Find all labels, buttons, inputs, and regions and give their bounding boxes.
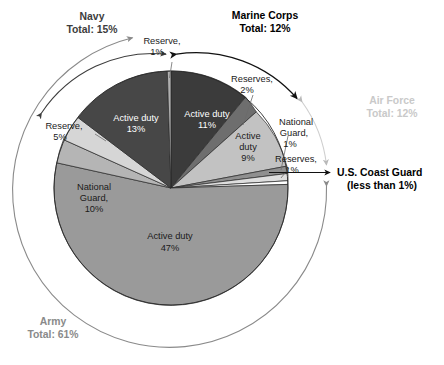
- label-mc-active-line2: 11%: [198, 120, 216, 130]
- label-af-active-line3: 9%: [241, 153, 254, 163]
- label-army-guard-line2: Guard,: [80, 193, 108, 203]
- label-army-guard-line3: 10%: [85, 204, 104, 214]
- chart-svg: Reserve, 1% Active duty 13% Active duty …: [0, 0, 444, 365]
- branch-label-coast-guard-total: (less than 1%): [347, 180, 417, 191]
- label-army-reserve-line2: 5%: [53, 132, 66, 142]
- branch-label-navy-name: Navy: [80, 11, 105, 22]
- branch-label-navy-total: Total: 15%: [66, 24, 117, 35]
- label-army-reserve-line1: Reserve,: [45, 121, 82, 131]
- branch-label-army-name: Army: [40, 316, 67, 327]
- label-army-guard-line1: National: [77, 182, 111, 192]
- label-army-active-line1: Active duty: [147, 231, 193, 241]
- label-af-guard-line3: 1%: [283, 139, 296, 149]
- label-navy-active-line1: Active duty: [113, 113, 159, 123]
- label-mc-reserves-line2: 2%: [240, 85, 253, 95]
- pie-chart-figure: Reserve, 1% Active duty 13% Active duty …: [0, 0, 444, 365]
- branch-label-air-force-name: Air Force: [369, 95, 415, 106]
- label-af-reserves-line2: 1%: [285, 165, 298, 175]
- label-navy-reserve-line1: Reserve,: [143, 36, 180, 46]
- label-af-reserves-line1: Reserves,: [275, 154, 317, 164]
- label-mc-reserves-line1: Reserves,: [231, 74, 273, 84]
- branch-label-marine-corps-total: Total: 12%: [239, 23, 290, 34]
- label-af-active-line1: Active: [235, 131, 260, 141]
- label-af-active-line2: duty: [239, 142, 257, 152]
- label-navy-active-line2: 13%: [127, 124, 146, 134]
- branch-label-army-total: Total: 61%: [27, 329, 78, 340]
- label-af-guard-line1: National: [279, 117, 313, 127]
- branch-label-air-force-total: Total: 12%: [366, 108, 417, 119]
- label-army-active-line2: 47%: [161, 243, 180, 253]
- branch-label-marine-corps-name: Marine Corps: [232, 10, 299, 21]
- label-af-guard-line2: Guard,: [280, 128, 308, 138]
- label-navy-reserve-line2: 1%: [150, 47, 163, 57]
- label-mc-active-line1: Active duty: [184, 109, 230, 119]
- branch-label-coast-guard-name: U.S. Coast Guard: [337, 167, 422, 178]
